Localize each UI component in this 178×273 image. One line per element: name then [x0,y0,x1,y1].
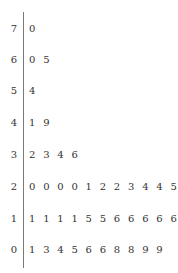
leaf-values: 1 1 1 1 5 5 6 6 6 6 6 7 8 9 9 9 9 [29,211,178,227]
leaf-values: 0 0 0 0 1 2 2 3 4 4 5 8 [29,179,178,195]
plot-row-stem-4: 4 1 9 [0,115,178,131]
plot-row-stem-5: 5 4 [0,83,178,99]
stem-label: 7 [10,21,18,37]
plot-row-stem-3: 3 2 3 4 6 [0,147,178,163]
stem-label: 4 [10,115,18,131]
plot-row-stem-2: 2 0 0 0 0 1 2 2 3 4 4 5 8 [0,179,178,195]
leaf-values: 2 3 4 6 [29,147,80,163]
plot-row-stem-7: 7 0 [0,21,178,37]
leaf-values: 1 3 4 5 6 6 8 8 9 9 [29,242,165,258]
leaf-values: 0 [29,21,38,37]
plot-row-stem-0: 0 1 3 4 5 6 6 8 8 9 9 [0,242,178,258]
stem-label: 0 [10,242,18,258]
stem-label: 1 [10,211,18,227]
leaf-values: 0 5 [29,52,52,68]
stem-label: 3 [10,147,18,163]
plot-row-stem-6: 6 0 5 [0,52,178,68]
plot-row-stem-1: 1 1 1 1 1 5 5 6 6 6 6 6 7 8 9 9 9 9 [0,211,178,227]
stem-and-leaf-plot: 7 0 6 0 5 5 4 4 1 9 3 2 3 4 6 2 0 0 0 0 … [0,0,178,273]
stem-leaf-divider-line [23,12,24,268]
stem-label: 6 [10,52,18,68]
leaf-values: 1 9 [29,115,52,131]
leaf-values: 4 [29,83,38,99]
stem-label: 2 [10,179,18,195]
stem-label: 5 [10,83,18,99]
